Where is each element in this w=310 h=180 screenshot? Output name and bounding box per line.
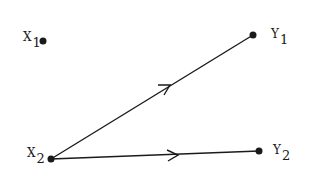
arrowhead-x2-y2-icon: [167, 150, 178, 161]
node-y1-letter: Y: [271, 27, 279, 41]
node-x1-label: X1: [23, 30, 41, 43]
node-x1-subscript: 1: [33, 35, 41, 50]
node-x2-dot: [48, 156, 55, 163]
node-y2-letter: Y: [273, 143, 281, 157]
node-y1-subscript: 1: [280, 32, 288, 47]
node-y1-dot: [250, 32, 257, 39]
node-y2-label: Y2: [273, 143, 290, 156]
edge-x2-y2: [51, 151, 259, 159]
node-x2-subscript: 2: [37, 151, 45, 166]
path-diagram: [0, 0, 310, 180]
node-x2-letter: X: [27, 146, 36, 160]
node-x2-label: X2: [27, 146, 45, 159]
node-x1-letter: X: [23, 30, 32, 44]
node-y2-subscript: 2: [282, 148, 290, 163]
node-y1-label: Y1: [271, 27, 288, 40]
node-y2-dot: [256, 148, 263, 155]
edge-x2-y1: [51, 35, 253, 159]
